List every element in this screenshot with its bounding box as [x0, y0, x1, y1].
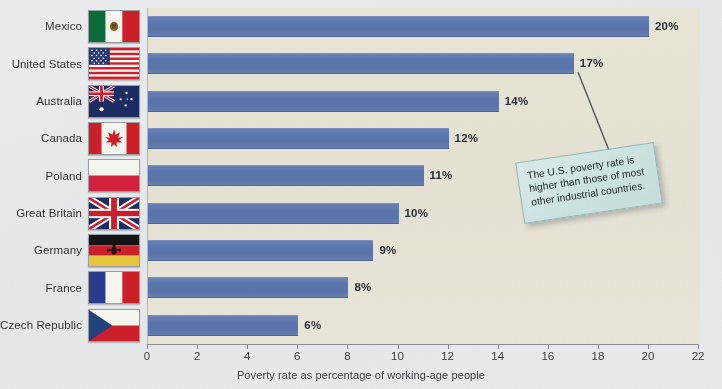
- x-axis-tick: [648, 344, 649, 349]
- category-label-row: Australia: [0, 87, 86, 115]
- x-axis-tick: [197, 344, 198, 349]
- x-axis-tick: [147, 344, 148, 349]
- category-label: Czech Republic: [0, 319, 86, 332]
- category-label: Poland: [46, 170, 86, 183]
- flag-great-britain-icon: [88, 197, 140, 230]
- chart-page: MexicoUnited StatesAustraliaCanadaPoland…: [0, 0, 722, 389]
- x-axis-tick: [247, 344, 248, 349]
- x-axis-tick-label: 16: [541, 350, 554, 362]
- category-label: Mexico: [45, 20, 86, 33]
- bar: [148, 16, 649, 37]
- x-axis-tick-label: 0: [144, 350, 150, 362]
- x-axis-tick: [448, 344, 449, 349]
- flag-czech-republic-icon: [88, 309, 140, 342]
- x-axis-tick: [398, 344, 399, 349]
- x-axis-tick: [548, 344, 549, 349]
- category-label: Germany: [34, 244, 86, 257]
- bar-value-label: 20%: [655, 20, 679, 32]
- category-label-row: Germany: [0, 236, 86, 264]
- category-label-row: United States: [0, 50, 86, 78]
- x-axis-tick-label: 18: [591, 350, 604, 362]
- bar-value-label: 11%: [430, 169, 453, 181]
- x-axis-tick: [347, 344, 348, 349]
- bar: [148, 277, 348, 298]
- bar-value-label: 10%: [405, 207, 429, 219]
- bar: [148, 240, 373, 261]
- bar: [148, 165, 424, 186]
- category-label: Great Britain: [16, 207, 86, 220]
- category-label-row: Canada: [0, 125, 86, 153]
- flag-canada-icon: [88, 122, 140, 155]
- bar-value-label: 17%: [580, 57, 604, 69]
- bar-value-label: 6%: [304, 319, 321, 331]
- x-axis-title: Poverty rate as percentage of working-ag…: [0, 369, 722, 381]
- category-label-row: Great Britain: [0, 199, 86, 227]
- category-label-row: Czech Republic: [0, 311, 86, 339]
- flag-mexico-icon: [88, 10, 140, 43]
- x-axis-tick-label: 14: [491, 350, 504, 362]
- bar-value-label: 12%: [455, 132, 479, 144]
- flag-germany-icon: [88, 234, 140, 267]
- bar: [148, 53, 574, 74]
- x-axis-tick-label: 10: [391, 350, 404, 362]
- category-label: France: [46, 282, 86, 295]
- category-label-row: Mexico: [0, 13, 86, 41]
- bar: [148, 315, 298, 336]
- category-label: Canada: [41, 132, 86, 145]
- x-axis-tick-label: 20: [642, 350, 655, 362]
- category-label: Australia: [36, 95, 86, 108]
- x-axis-tick-label: 6: [294, 350, 300, 362]
- x-axis-tick-label: 4: [244, 350, 250, 362]
- category-label-column: MexicoUnited StatesAustraliaCanadaPoland…: [0, 8, 86, 344]
- bar: [148, 128, 449, 149]
- x-axis-tick: [598, 344, 599, 349]
- x-axis-tick: [297, 344, 298, 349]
- bar-value-label: 14%: [505, 95, 529, 107]
- x-axis-tick-label: 22: [692, 350, 705, 362]
- flag-france-icon: [88, 271, 140, 304]
- x-axis-tick: [698, 344, 699, 349]
- flag-poland-icon: [88, 159, 140, 192]
- bar-value-label: 9%: [379, 244, 396, 256]
- category-label: United States: [12, 58, 86, 71]
- flag-column: [88, 8, 142, 344]
- callout-text: The U.S. poverty rate is higher than tho…: [526, 151, 652, 209]
- bar: [148, 203, 399, 224]
- flag-united-states-icon: [88, 47, 140, 80]
- x-axis-tick-label: 2: [194, 350, 200, 362]
- x-axis-tick-label: 12: [441, 350, 454, 362]
- category-label-row: France: [0, 274, 86, 302]
- x-axis-line: [147, 344, 698, 345]
- x-axis-tick: [498, 344, 499, 349]
- flag-australia-icon: [88, 85, 140, 118]
- bar: [148, 91, 499, 112]
- bar-value-label: 8%: [354, 281, 371, 293]
- category-label-row: Poland: [0, 162, 86, 190]
- x-axis-tick-label: 8: [344, 350, 350, 362]
